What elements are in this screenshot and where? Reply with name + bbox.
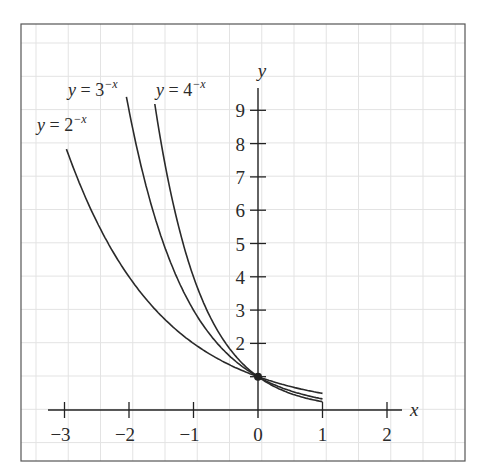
y-tick-label: 3 xyxy=(236,300,246,321)
intersection-point xyxy=(254,373,262,381)
x-tick-label: −1 xyxy=(179,424,199,445)
x-tick-label: 0 xyxy=(253,424,263,445)
x-tick-label: 2 xyxy=(382,424,392,445)
curve-label-base-4: y = 4−x xyxy=(154,77,206,100)
chart: −3−2−101223456789xyy = 2−xy = 3−xy = 4−x xyxy=(0,0,478,468)
curve-base-3 xyxy=(126,97,322,399)
curve-label-base-3: y = 3−x xyxy=(66,77,118,100)
x-tick-label: 1 xyxy=(318,424,328,445)
y-axis-label: y xyxy=(256,60,267,81)
labels: −3−2−101223456789xyy = 2−xy = 3−xy = 4−x xyxy=(35,60,419,445)
x-axis-label: x xyxy=(409,399,419,420)
curve-base-2 xyxy=(66,149,322,393)
y-tick-label: 2 xyxy=(236,333,246,354)
axes xyxy=(48,88,402,418)
y-tick-label: 7 xyxy=(236,167,246,188)
y-tick-label: 8 xyxy=(236,134,246,155)
y-tick-label: 6 xyxy=(236,200,246,221)
y-tick-label: 9 xyxy=(236,100,246,121)
y-tick-label: 4 xyxy=(236,267,246,288)
x-tick-label: −3 xyxy=(50,424,70,445)
curve-label-base-2: y = 2−x xyxy=(35,112,87,135)
x-tick-label: −2 xyxy=(115,424,135,445)
y-tick-label: 5 xyxy=(236,234,246,255)
